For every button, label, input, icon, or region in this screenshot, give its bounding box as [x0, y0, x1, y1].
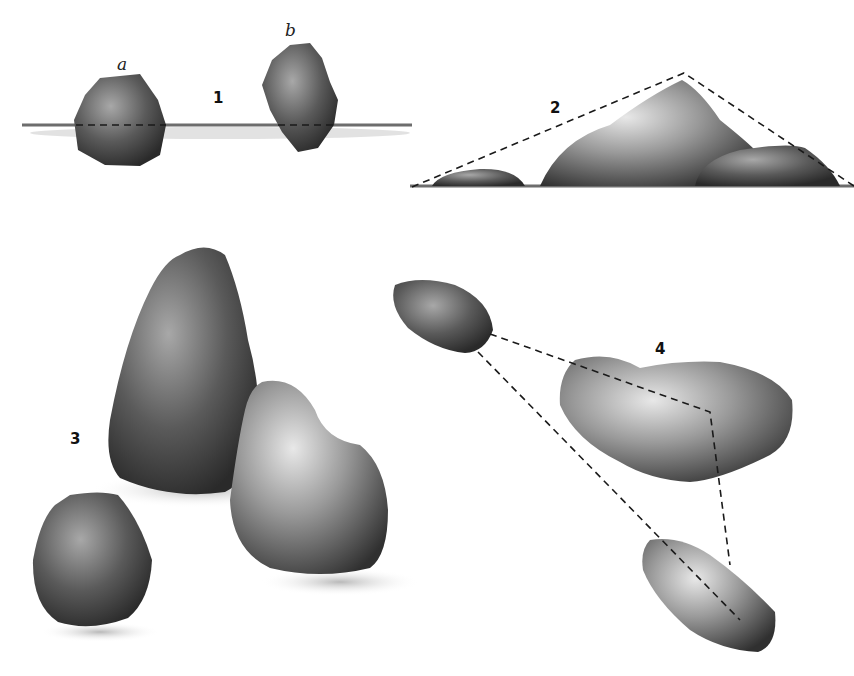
label-3: 3 — [70, 430, 80, 448]
label-b: b — [285, 20, 296, 40]
panel-4: 4 — [393, 280, 792, 652]
stone-bottom-right — [642, 539, 775, 652]
panel-3: 3 — [33, 248, 420, 643]
panel-1: a b 1 — [22, 20, 412, 166]
small-stone-3 — [33, 493, 152, 627]
label-4: 4 — [655, 340, 665, 358]
stone-composition-figure: a b 1 2 3 4 — [0, 0, 854, 676]
label-1: 1 — [213, 89, 223, 107]
label-a: a — [117, 54, 127, 74]
panel-2: 2 — [410, 73, 854, 187]
small-stone — [432, 169, 525, 186]
stone-a — [74, 74, 166, 166]
stone-large-center — [560, 356, 793, 482]
round-stone — [230, 381, 388, 574]
label-2: 2 — [550, 99, 560, 117]
stone-top-left — [393, 280, 493, 353]
